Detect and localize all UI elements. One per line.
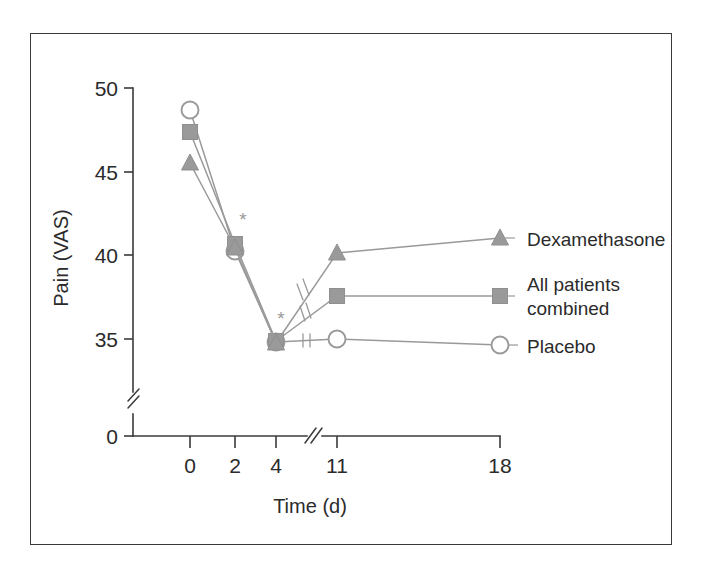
x-tick-label-18: 18 [488,454,511,477]
y-tick-label-40: 40 [95,244,118,267]
data-point-placebo-day11 [329,331,346,348]
y-tick-label-0: 0 [106,425,118,448]
data-point-placebo-day18 [492,337,509,354]
y-axis-title: Pain (VAS) [50,209,72,306]
series-placebo [182,102,509,354]
dexamethasone-line-right [276,238,500,343]
data-point-placebo-day0 [182,102,199,119]
x-tick-label-4: 4 [270,454,282,477]
significance-star-day2: * [239,209,247,230]
data-point-dexamethasone-day18 [492,229,509,245]
y-tick-label-50: 50 [95,77,118,100]
chart-canvas: 50 45 40 35 0 Pain (VAS) [0,0,706,577]
significance-star-day4: * [277,308,285,329]
x-tick-label-2: 2 [229,454,241,477]
x-tick-label-11: 11 [326,454,348,477]
legend-entry-all-patients-combined: All patients combined [500,274,620,319]
legend: Dexamethasone All patients combined Plac… [500,229,665,357]
x-axis-title: Time (d) [273,495,347,517]
legend-label-combined-line2: combined [527,298,609,319]
y-axis: 50 45 40 35 0 Pain (VAS) [50,77,139,448]
series-dexamethasone [182,154,509,350]
series-all-patients-combined [183,125,508,349]
data-point-dexamethasone-day0 [182,154,199,170]
legend-entry-dexamethasone: Dexamethasone [500,229,665,250]
legend-entry-placebo: Placebo [509,336,596,357]
y-tick-label-45: 45 [95,161,118,184]
placebo-line-left [190,110,276,342]
data-point-combined-day0 [183,125,198,140]
figure-container: 50 45 40 35 0 Pain (VAS) [0,0,706,577]
legend-label-placebo: Placebo [527,336,596,357]
y-tick-label-35: 35 [95,328,118,351]
data-point-combined-day11 [330,289,345,304]
legend-label-dexamethasone: Dexamethasone [527,229,665,250]
x-tick-label-0: 0 [184,454,196,477]
x-axis: 0 2 4 11 18 Time (d) [133,428,512,517]
legend-label-combined-line1: All patients [527,274,620,295]
